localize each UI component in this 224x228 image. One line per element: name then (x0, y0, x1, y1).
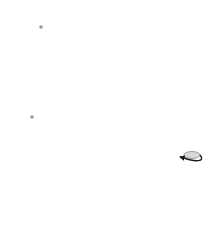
canvas-grid (0, 0, 224, 228)
start-dot-icon (30, 115, 34, 119)
start-dot-icon (39, 25, 43, 29)
tack-thread-icon (180, 152, 202, 161)
